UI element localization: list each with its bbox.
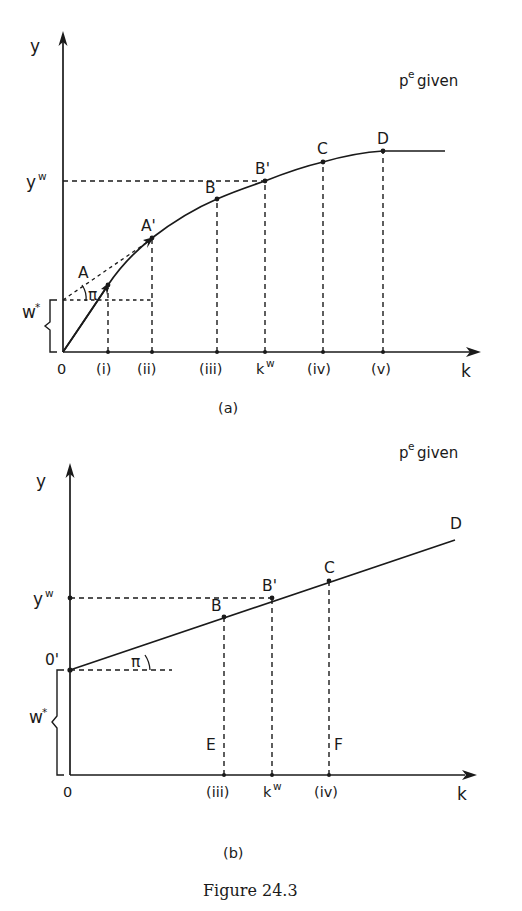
panel-a-ticklabel-v: (v) (371, 361, 391, 377)
panel-a-ticklabel-kw-base: k (256, 361, 265, 377)
panel-a-tickmark-kw (263, 350, 267, 354)
panel-b-origin-label: 0 (63, 784, 72, 800)
panel-a-angle-pi: π (82, 285, 97, 304)
panel-b-label-B: B (211, 597, 222, 615)
panel-b-wage-label-base: w (29, 707, 43, 727)
panel-a-point-D (381, 149, 386, 154)
panel-b-y-level: y w (33, 587, 272, 609)
panel-b-wage-brace: w * (29, 670, 64, 775)
panel-b-note-word: given (417, 444, 458, 462)
panel-b-point-C (327, 579, 332, 584)
panel-a-note-word: given (417, 72, 458, 90)
panel-a-origin-label: 0 (57, 361, 66, 377)
panel-b-intercept-label: 0' (45, 651, 59, 669)
panel-a-point-A (106, 283, 111, 288)
panel-b-label-C: C (324, 559, 335, 577)
panel-a-y-level-label-base: y (26, 172, 36, 192)
panel-a-label-D: D (377, 130, 389, 148)
panel-a-ticklabel-kw: k w (256, 357, 275, 377)
panel-b-linear-function (70, 540, 455, 670)
panel-b-ticklabel-iii: (iii) (206, 784, 229, 800)
panel-b-point-B (222, 615, 227, 620)
panel-b-wage-label-sup: * (42, 706, 47, 718)
panel-b-ticklabel-kw: k w (263, 780, 282, 800)
panel-a-wage-label-sup: * (35, 301, 40, 313)
panel-b-note: p e given (399, 440, 458, 462)
panel-a-tickmark-iii (215, 350, 219, 354)
panel-a-point-Aprime (150, 236, 155, 241)
panel-a-label-A: A (78, 264, 89, 282)
panel-b-tickmark-iv (327, 773, 331, 777)
panel-b: y k p e given y w w * 0' (29, 440, 477, 861)
panel-a-ticklabel-ii: (ii) (137, 361, 156, 377)
panel-a-ticklabel-iii: (iii) (199, 361, 222, 377)
figure-24-3-svg: y k p e given y w w * (0, 0, 522, 911)
panel-a-wage-brace: w * (22, 300, 57, 352)
panel-a-tickmark-iv (321, 350, 325, 354)
panel-b-y-level-label-sup: w (45, 587, 54, 599)
panel-a-tickmark-i (106, 350, 110, 354)
panel-a-ticklabel-iv: (iv) (307, 361, 331, 377)
panel-a-ticklabel-i: (i) (96, 361, 111, 377)
panel-a-point-C (321, 160, 326, 165)
panel-b-tickmark-iii (222, 773, 226, 777)
panel-a-x-axis (63, 347, 481, 357)
panel-b-tickmark-kw (270, 773, 274, 777)
panel-b-x-axis-label: k (457, 784, 467, 804)
panel-a-point-Bprime (263, 179, 268, 184)
panel-b-y-level-label-base: y (33, 589, 43, 609)
panel-a-angle-label: π (88, 286, 97, 304)
panel-a-ticklabel-kw-sup: w (266, 357, 275, 369)
panel-a-point-B (215, 197, 220, 202)
panel-a-wage-label-base: w (22, 302, 36, 322)
panel-a-y-level: y w (26, 170, 265, 192)
panel-a: y k p e given y w w * (22, 31, 481, 416)
panel-b-caption: (b) (223, 845, 244, 861)
panel-a-tickmark-ii (150, 350, 154, 354)
figure-title: Figure 24.3 (203, 881, 298, 900)
panel-b-point-Bprime (270, 596, 275, 601)
panel-b-ticklabel-kw-base: k (263, 784, 272, 800)
panel-a-label-B: B (205, 179, 216, 197)
panel-a-label-C: C (317, 140, 328, 158)
panel-a-x-axis-label: k (461, 361, 471, 381)
panel-a-y-axis (59, 31, 68, 352)
panel-a-note-sup: e (408, 68, 414, 80)
panel-b-angle-label: π (131, 653, 140, 671)
panel-a-caption: (a) (218, 400, 238, 416)
panel-b-ticklabel-iv: (iv) (314, 784, 338, 800)
panel-b-y-axis (66, 463, 75, 775)
panel-b-label-F: F (334, 736, 343, 754)
panel-b-angle-pi: π (131, 653, 150, 671)
figure-container: y k p e given y w w * (0, 0, 522, 911)
panel-a-label-Bprime: B' (255, 160, 270, 178)
panel-b-y-axis-label: y (36, 471, 46, 491)
panel-b-note-sup: e (408, 440, 414, 452)
panel-b-ticklabel-kw-sup: w (273, 780, 282, 792)
panel-a-y-level-label-sup: w (38, 170, 47, 182)
panel-b-label-E: E (206, 736, 216, 754)
panel-a-y-axis-label: y (30, 36, 40, 56)
panel-a-label-Aprime: A' (141, 217, 156, 235)
panel-b-label-D: D (450, 515, 462, 533)
panel-a-chord-line (63, 237, 154, 300)
panel-a-note: p e given (399, 68, 458, 90)
panel-b-label-Bprime: B' (262, 577, 277, 595)
panel-a-tickmark-v (381, 350, 385, 354)
